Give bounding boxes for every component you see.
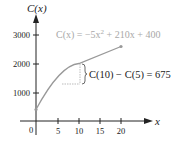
x-tick-label: 15 — [96, 126, 105, 136]
y-tick-label: 2000 — [13, 59, 30, 69]
end-point — [119, 45, 122, 48]
x-axis-title: x — [154, 115, 160, 127]
equation-label: C(x) = −5x2 + 210x + 400 — [56, 28, 160, 41]
x-tick-label: 0 — [29, 125, 33, 135]
x-tick-label: 20 — [117, 126, 126, 136]
x-tick-label: 5 — [56, 126, 60, 136]
y-axis-title: C(x) — [27, 2, 47, 15]
start-point — [34, 108, 37, 111]
y-tick-label: 3000 — [13, 30, 30, 40]
brace-icon — [82, 64, 87, 84]
x-tick-label: 10 — [75, 126, 84, 136]
chart: 3000 2000 1000 0 5 10 15 20 C(x) x C(x) … — [0, 0, 194, 145]
y-axis-arrow-icon — [33, 14, 39, 23]
x-axis-arrow-icon — [144, 118, 153, 124]
y-tick-label: 1000 — [13, 88, 30, 98]
difference-annotation: C(10) − C(5) = 675 — [89, 69, 171, 81]
